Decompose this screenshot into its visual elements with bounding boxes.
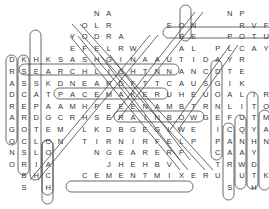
grid-letter[interactable]: H bbox=[79, 66, 91, 77]
grid-letter[interactable]: G bbox=[200, 112, 212, 123]
grid-letter[interactable]: A bbox=[42, 158, 54, 169]
grid-letter[interactable]: H bbox=[115, 158, 127, 169]
grid-letter[interactable]: I bbox=[224, 77, 236, 88]
grid-letter[interactable]: E bbox=[188, 124, 200, 135]
grid-letter[interactable]: N bbox=[91, 147, 103, 158]
grid-letter[interactable]: T bbox=[139, 170, 151, 181]
grid-letter[interactable]: D bbox=[6, 54, 18, 65]
grid-letter[interactable]: Y bbox=[224, 54, 236, 65]
grid-letter[interactable]: N bbox=[6, 147, 18, 158]
grid-letter[interactable]: R bbox=[236, 54, 248, 65]
grid-letter[interactable]: S bbox=[224, 182, 236, 193]
grid-letter[interactable]: R bbox=[54, 66, 66, 77]
grid-letter[interactable]: N bbox=[212, 100, 224, 111]
grid-letter[interactable]: E bbox=[151, 147, 163, 158]
grid-letter[interactable]: H bbox=[42, 182, 54, 193]
grid-letter[interactable]: G bbox=[42, 112, 54, 123]
grid-letter[interactable]: S bbox=[91, 112, 103, 123]
grid-letter[interactable]: P bbox=[54, 89, 66, 100]
grid-letter[interactable]: P bbox=[212, 135, 224, 146]
grid-letter[interactable]: A bbox=[6, 112, 18, 123]
grid-letter[interactable]: E bbox=[79, 77, 91, 88]
grid-letter[interactable]: P bbox=[30, 100, 42, 111]
grid-letter[interactable]: E bbox=[188, 89, 200, 100]
grid-letter[interactable]: N bbox=[127, 54, 139, 65]
grid-letter[interactable]: E bbox=[188, 31, 200, 42]
grid-letter[interactable]: A bbox=[91, 77, 103, 88]
grid-letter[interactable]: W bbox=[175, 124, 187, 135]
grid-letter[interactable]: E bbox=[127, 100, 139, 111]
grid-letter[interactable]: Y bbox=[248, 124, 260, 135]
grid-letter[interactable]: O bbox=[175, 112, 187, 123]
grid-letter[interactable]: L bbox=[224, 100, 236, 111]
grid-letter[interactable]: K bbox=[127, 89, 139, 100]
grid-letter[interactable]: H bbox=[91, 54, 103, 65]
grid-letter[interactable]: O bbox=[18, 124, 30, 135]
grid-letter[interactable]: R bbox=[236, 19, 248, 30]
grid-letter[interactable]: E bbox=[91, 42, 103, 53]
grid-letter[interactable]: R bbox=[103, 135, 115, 146]
grid-letter[interactable]: Q bbox=[236, 124, 248, 135]
grid-letter[interactable]: S bbox=[79, 54, 91, 65]
grid-letter[interactable]: R bbox=[103, 77, 115, 88]
grid-letter[interactable]: G bbox=[127, 124, 139, 135]
grid-letter[interactable]: G bbox=[115, 66, 127, 77]
grid-letter[interactable]: R bbox=[175, 31, 187, 42]
grid-letter[interactable]: V bbox=[248, 19, 260, 30]
grid-letter[interactable]: C bbox=[18, 89, 30, 100]
grid-letter[interactable]: A bbox=[224, 89, 236, 100]
grid-letter[interactable]: B bbox=[151, 158, 163, 169]
grid-letter[interactable]: A bbox=[42, 66, 54, 77]
grid-letter[interactable]: E bbox=[139, 124, 151, 135]
grid-letter[interactable]: G bbox=[103, 147, 115, 158]
grid-letter[interactable]: G bbox=[6, 124, 18, 135]
grid-letter[interactable]: E bbox=[103, 112, 115, 123]
grid-letter[interactable]: N bbox=[91, 8, 103, 19]
grid-letter[interactable]: T bbox=[139, 77, 151, 88]
grid-letter[interactable]: U bbox=[200, 89, 212, 100]
grid-letter[interactable]: S bbox=[18, 147, 30, 158]
grid-letter[interactable]: I bbox=[188, 54, 200, 65]
grid-letter[interactable]: M bbox=[54, 124, 66, 135]
grid-letter[interactable]: P bbox=[212, 42, 224, 53]
grid-letter[interactable]: N bbox=[163, 66, 175, 77]
grid-letter[interactable]: S bbox=[18, 66, 30, 77]
grid-letter[interactable]: D bbox=[200, 54, 212, 65]
grid-letter[interactable]: E bbox=[42, 124, 54, 135]
grid-letter[interactable]: H bbox=[127, 66, 139, 77]
grid-letter[interactable]: A bbox=[224, 135, 236, 146]
grid-letter[interactable]: L bbox=[91, 19, 103, 30]
grid-letter[interactable]: J bbox=[103, 158, 115, 169]
grid-letter[interactable]: L bbox=[30, 147, 42, 158]
grid-letter[interactable]: G bbox=[103, 54, 115, 65]
grid-letter[interactable]: R bbox=[115, 42, 127, 53]
grid-letter[interactable]: A bbox=[248, 42, 260, 53]
grid-letter[interactable]: S bbox=[54, 54, 66, 65]
grid-letter[interactable]: M bbox=[163, 100, 175, 111]
grid-letter[interactable]: U bbox=[260, 31, 269, 42]
grid-letter[interactable]: B bbox=[175, 100, 187, 111]
grid-letter[interactable]: N bbox=[54, 135, 66, 146]
grid-letter[interactable]: W bbox=[188, 112, 200, 123]
grid-letter[interactable]: A bbox=[54, 100, 66, 111]
grid-letter[interactable]: F bbox=[151, 135, 163, 146]
grid-letter[interactable]: T bbox=[248, 31, 260, 42]
grid-letter[interactable]: I bbox=[139, 112, 151, 123]
grid-letter[interactable]: T bbox=[175, 54, 187, 65]
grid-letter[interactable]: S bbox=[18, 182, 30, 193]
grid-letter[interactable]: K bbox=[236, 77, 248, 88]
grid-letter[interactable]: E bbox=[115, 147, 127, 158]
grid-letter[interactable]: N bbox=[151, 112, 163, 123]
grid-letter[interactable]: U bbox=[212, 170, 224, 181]
grid-letter[interactable]: D bbox=[6, 89, 18, 100]
grid-letter[interactable]: N bbox=[115, 135, 127, 146]
grid-letter[interactable]: H bbox=[30, 170, 42, 181]
grid-letter[interactable]: R bbox=[18, 112, 30, 123]
grid-letter[interactable]: D bbox=[91, 31, 103, 42]
grid-letter[interactable]: C bbox=[212, 147, 224, 158]
grid-letter[interactable]: D bbox=[248, 158, 260, 169]
grid-letter[interactable]: H bbox=[248, 182, 260, 193]
grid-letter[interactable]: T bbox=[248, 112, 260, 123]
grid-letter[interactable]: O bbox=[6, 135, 18, 146]
grid-letter[interactable]: R bbox=[6, 66, 18, 77]
